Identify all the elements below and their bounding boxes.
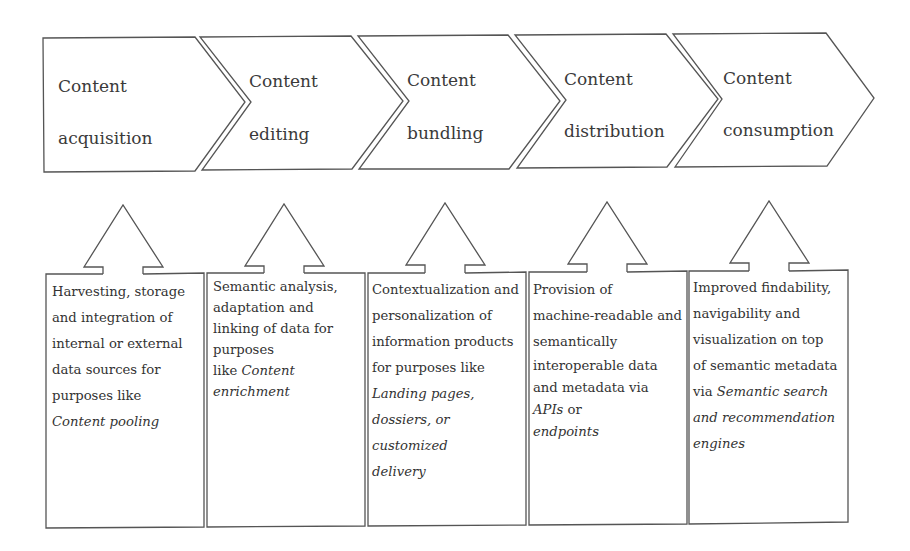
stage-5-label-line2: consumption: [723, 122, 834, 139]
desc-5-via-line: via Semantic search: [693, 379, 849, 405]
desc-3-text: Contextualization and personalization of…: [372, 277, 527, 485]
desc-5-line: Improved findability,: [693, 275, 849, 301]
stage-4-label-line2: distribution: [564, 123, 665, 140]
up-arrow-1: [84, 205, 163, 274]
desc-5-line: of semantic metadata: [693, 353, 849, 379]
desc-3-line: Contextualization and: [372, 277, 527, 303]
desc-4-example: endpoints: [533, 421, 688, 443]
desc-3-line: information products: [372, 329, 527, 355]
desc-5-text: Improved findability, navigability and v…: [693, 275, 849, 457]
desc-2-line: purposes: [213, 339, 363, 360]
desc-1-line: Harvesting, storage: [52, 279, 204, 305]
desc-5-example: engines: [693, 431, 849, 457]
desc-4-line: interoperable data: [533, 355, 688, 377]
desc-1-line: and integration of: [52, 305, 204, 331]
up-arrow-5: [730, 201, 809, 271]
desc-5-example: and recommendation: [693, 405, 849, 431]
stage-chevron-3: [358, 35, 560, 169]
desc-5-via: via: [693, 384, 717, 399]
desc-2-line: like Content: [213, 360, 363, 381]
desc-1-text: Harvesting, storage and integration of i…: [52, 279, 204, 435]
stage-4-label-line1: Content: [564, 71, 633, 88]
stage-chevron-5: [673, 33, 874, 167]
stage-5-label-line1: Content: [723, 70, 792, 87]
stage-2-label-line1: Content: [249, 73, 318, 90]
desc-2-text: Semantic analysis, adaptation and linkin…: [213, 276, 363, 402]
up-arrow-4: [568, 202, 647, 272]
desc-4-line: semantically: [533, 329, 688, 355]
desc-3-example: customized: [372, 433, 527, 459]
stage-1-label-line1: Content: [58, 78, 127, 95]
desc-2-like: like: [213, 363, 241, 378]
desc-3-line: for purposes like: [372, 355, 527, 381]
desc-1-line: purposes like: [52, 383, 204, 409]
desc-2-line: linking of data for: [213, 318, 363, 339]
stage-3-label-line1: Content: [407, 72, 476, 89]
desc-5-example: Semantic search: [717, 384, 828, 399]
desc-4-line: machine-readable and: [533, 303, 688, 329]
desc-4-text: Provision of machine-readable and semant…: [533, 277, 688, 443]
stage-1-label-line2: acquisition: [58, 130, 153, 147]
up-arrow-3: [406, 203, 485, 273]
desc-3-example: Landing pages,: [372, 381, 527, 407]
desc-3-line: personalization of: [372, 303, 527, 329]
desc-2-line: adaptation and: [213, 297, 363, 318]
desc-5-line: visualization on top: [693, 327, 849, 353]
desc-2-example: Content: [241, 363, 294, 378]
desc-3-example: dossiers, or: [372, 407, 527, 433]
desc-4-line: Provision of: [533, 277, 688, 303]
desc-3-example: delivery: [372, 459, 527, 485]
desc-1-line: data sources for: [52, 357, 204, 383]
stage-3-label-line2: bundling: [407, 125, 483, 142]
desc-4-or: or: [563, 402, 581, 417]
desc-4-apis: APIs: [533, 402, 563, 417]
desc-2-line: Semantic analysis,: [213, 276, 363, 297]
desc-1-example: Content pooling: [52, 409, 204, 435]
desc-2-example: enrichment: [213, 381, 363, 402]
desc-4-line: and metadata via: [533, 377, 688, 399]
stage-2-label-line2: editing: [249, 126, 309, 143]
desc-4-apis-line: APIs or: [533, 399, 688, 421]
desc-1-line: internal or external: [52, 331, 204, 357]
desc-5-line: navigability and: [693, 301, 849, 327]
up-arrow-2: [245, 204, 324, 273]
